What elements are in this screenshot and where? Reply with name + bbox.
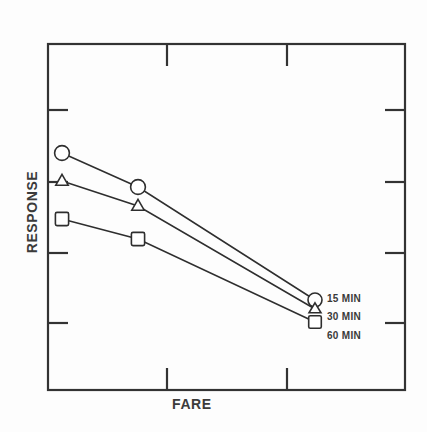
y-axis-title: RESPONSE <box>24 162 40 262</box>
series-15-min-line <box>62 153 315 300</box>
chart-plot-area <box>0 0 427 432</box>
series-30-min-line <box>62 181 315 309</box>
x-axis-title: FARE <box>172 396 212 412</box>
series-30-min <box>56 174 321 312</box>
series-60-min <box>55 212 321 328</box>
series-15-min-point-2 <box>131 180 146 195</box>
series-60-min-point-1 <box>55 212 68 225</box>
series-15-min <box>55 146 322 307</box>
series-60-min-line <box>62 219 315 322</box>
chart-figure: RESPONSE FARE 15 MIN 30 MIN 60 MIN <box>0 0 427 432</box>
series-15-min-point-1 <box>55 146 70 161</box>
series-30-min-point-1 <box>56 174 68 185</box>
y-axis-ticks-right <box>385 110 405 323</box>
x-axis-ticks-bottom <box>167 368 287 390</box>
series-label-15-min: 15 MIN <box>327 293 361 304</box>
series-60-min-point-3 <box>309 316 322 329</box>
series-label-30-min: 30 MIN <box>327 311 361 322</box>
series-label-60-min: 60 MIN <box>327 330 361 341</box>
series-60-min-point-2 <box>131 232 144 245</box>
x-axis-ticks-top <box>167 44 287 66</box>
